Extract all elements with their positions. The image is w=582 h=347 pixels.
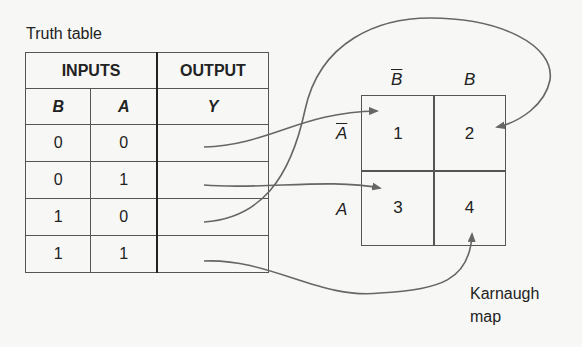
arrow-row2-to-cell3 xyxy=(204,184,380,188)
mapping-arrows xyxy=(0,0,582,347)
arrow-row4-to-cell4 xyxy=(204,234,472,294)
arrow-row1-to-cell1 xyxy=(204,111,377,147)
arrow-row3-to-cell2 xyxy=(204,18,550,222)
